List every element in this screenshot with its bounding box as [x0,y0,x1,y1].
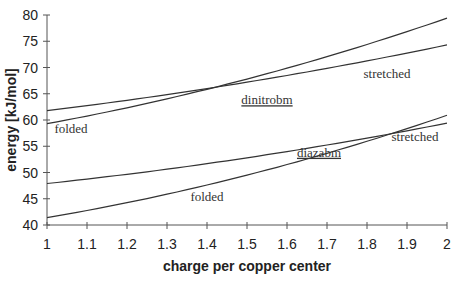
x-tick-label: 1.4 [197,236,217,252]
x-tick-label: 1.8 [357,236,377,252]
y-tick-label: 60 [22,112,38,128]
y-tick-label: 55 [22,138,38,154]
y-axis-title: energy [kJ/mol] [3,68,19,171]
annotation-dinitrobm: dinitrobm [241,92,292,107]
annotation-stretched: stretched [364,66,411,81]
annotation-folded: folded [54,121,88,136]
annotation-diazabm: diazabm [297,145,341,160]
y-tick-label: 45 [22,191,38,207]
x-tick-label: 1.2 [117,236,137,252]
series-line-diazabm-stretched [47,123,447,183]
x-tick-label: 1.9 [397,236,417,252]
line-chart: 40455055606570758011.11.21.31.41.51.61.7… [0,0,457,284]
series-line-diazabm-folded [47,115,447,217]
y-tick-label: 65 [22,86,38,102]
y-tick-label: 80 [22,7,38,23]
x-tick-label: 1.7 [317,236,337,252]
x-axis-title: charge per copper center [163,258,332,274]
x-tick-label: 1 [43,236,51,252]
y-tick-label: 75 [22,33,38,49]
x-tick-label: 2 [443,236,451,252]
x-tick-label: 1.6 [277,236,297,252]
x-tick-label: 1.1 [77,236,97,252]
y-tick-label: 50 [22,165,38,181]
annotation-folded: folded [190,189,224,204]
y-tick-label: 40 [22,217,38,233]
y-tick-label: 70 [22,60,38,76]
annotation-stretched: stretched [392,129,439,144]
x-tick-label: 1.5 [237,236,257,252]
series-lines [47,18,447,218]
x-tick-label: 1.3 [157,236,177,252]
